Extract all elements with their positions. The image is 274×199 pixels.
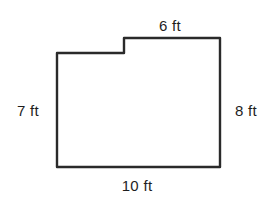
right-dimension-label: 8 ft bbox=[235, 103, 257, 118]
top-dimension-label: 6 ft bbox=[159, 18, 181, 33]
room-outline bbox=[57, 38, 220, 167]
bottom-dimension-label: 10 ft bbox=[122, 178, 153, 193]
left-dimension-label: 7 ft bbox=[17, 103, 39, 118]
floor-plan-diagram bbox=[0, 0, 274, 199]
